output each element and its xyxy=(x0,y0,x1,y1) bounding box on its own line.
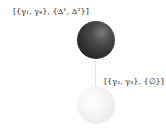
node-label-top: [{γ₁, γ₄}, {Δ¹, Δ²}] xyxy=(13,7,89,17)
node-light-sphere[interactable] xyxy=(77,86,115,124)
node-dark-sphere[interactable] xyxy=(77,21,115,59)
edge-connector xyxy=(95,56,96,90)
node-label-bottom: [{γ₂, γ₃}, {∅}] xyxy=(104,77,164,87)
